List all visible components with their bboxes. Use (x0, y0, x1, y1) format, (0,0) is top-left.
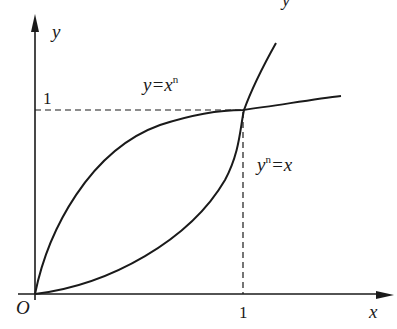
label-inverse-curve-y: y (255, 154, 266, 175)
label-power-curve: y=xn (141, 73, 179, 95)
x-tick-label-1: 1 (239, 303, 248, 322)
function-graph-figure: y y x O 1 1 y=xn yn=x (0, 0, 397, 329)
label-power-curve-exponent: n (173, 73, 179, 85)
graph-canvas: y y x O 1 1 y=xn yn=x (0, 0, 397, 329)
origin-label: O (16, 297, 30, 318)
curve-y-equals-x-power-n (35, 96, 341, 294)
label-inverse-curve: yn=x (255, 153, 293, 175)
y-axis-label: y (50, 21, 61, 42)
label-inverse-curve-rest: =x (271, 154, 293, 175)
x-axis-label: x (368, 301, 378, 322)
x-axis-arrow-icon (376, 291, 394, 299)
top-fragment-text: y (280, 0, 290, 10)
y-tick-label-1: 1 (43, 89, 52, 108)
label-power-curve-base: y=x (141, 74, 173, 95)
y-axis-arrow-icon (31, 14, 39, 32)
